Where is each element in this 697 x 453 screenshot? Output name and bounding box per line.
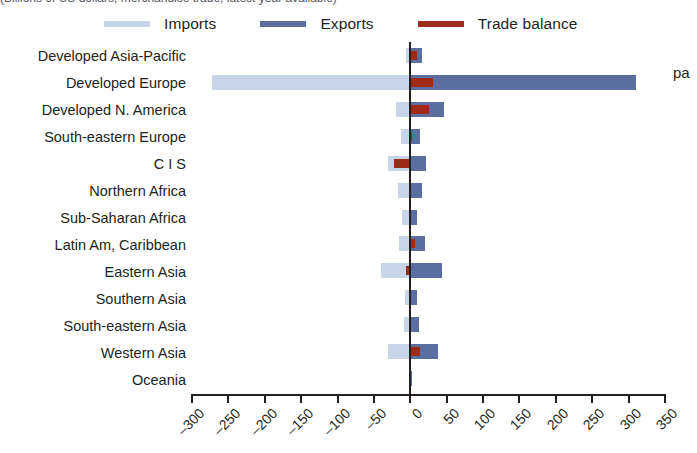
- zero-reference-line: [409, 42, 411, 394]
- category-axis-labels: Developed Asia-PacificDeveloped EuropeDe…: [0, 44, 186, 394]
- bar-exports[interactable]: [410, 317, 419, 332]
- legend-label-imports: Imports: [164, 15, 216, 33]
- x-tick-mark: [373, 394, 375, 403]
- category-label: Developed Asia-Pacific: [0, 48, 186, 64]
- category-label: C I S: [0, 156, 186, 172]
- bar-imports[interactable]: [212, 75, 410, 90]
- bar-row: [192, 44, 665, 71]
- legend-label-trade-balance: Trade balance: [478, 15, 578, 33]
- legend-swatch-imports-icon: [104, 21, 150, 27]
- category-label: Latin Am, Caribbean: [0, 237, 186, 253]
- bar-exports[interactable]: [410, 263, 441, 278]
- chart-root: (Billions of US dollars, merchandise tra…: [0, 0, 697, 453]
- bar-row: [192, 71, 665, 98]
- legend-item-exports[interactable]: Exports: [260, 15, 373, 33]
- bar-exports[interactable]: [410, 183, 422, 198]
- bar-row: [192, 286, 665, 313]
- legend-swatch-exports-icon: [260, 21, 306, 27]
- category-label: South-eastern Asia: [0, 318, 186, 334]
- bar-row: [192, 313, 665, 340]
- category-label: Oceania: [0, 372, 186, 388]
- bar-row: [192, 125, 665, 152]
- bar-row: [192, 179, 665, 206]
- legend-label-exports: Exports: [320, 15, 373, 33]
- bar-exports[interactable]: [410, 75, 636, 90]
- legend-item-imports[interactable]: Imports: [104, 15, 216, 33]
- bar-row: [192, 340, 665, 367]
- x-tick-mark: [482, 394, 484, 403]
- x-tick-mark: [555, 394, 557, 403]
- category-label: South-eastern Europe: [0, 129, 186, 145]
- bar-row: [192, 259, 665, 286]
- bar-row: [192, 152, 665, 179]
- bar-trade-balance[interactable]: [410, 347, 419, 356]
- x-tick-mark: [664, 394, 666, 403]
- x-tick-mark: [628, 394, 630, 403]
- category-label: Developed Europe: [0, 75, 186, 91]
- legend-item-trade-balance[interactable]: Trade balance: [418, 15, 578, 33]
- plot-area: [192, 44, 665, 394]
- bar-imports[interactable]: [396, 102, 410, 117]
- bar-row: [192, 232, 665, 259]
- x-tick-mark: [300, 394, 302, 403]
- chart-legend: Imports Exports Trade balance: [0, 12, 640, 36]
- bar-row: [192, 367, 665, 394]
- category-label: Sub-Saharan Africa: [0, 210, 186, 226]
- bar-imports[interactable]: [388, 344, 411, 359]
- category-label: Eastern Asia: [0, 264, 186, 280]
- x-tick-mark: [264, 394, 266, 403]
- bar-row: [192, 98, 665, 125]
- x-axis-ticks: –300–250–200–150–100–5005010015020025030…: [192, 394, 665, 453]
- bar-trade-balance[interactable]: [394, 159, 410, 168]
- x-tick-mark: [227, 394, 229, 403]
- x-tick-mark: [591, 394, 593, 403]
- category-label: Southern Asia: [0, 291, 186, 307]
- bar-row: [192, 206, 665, 233]
- bar-trade-balance[interactable]: [410, 105, 429, 114]
- x-tick-mark: [446, 394, 448, 403]
- category-label: Northern Africa: [0, 183, 186, 199]
- category-label: Western Asia: [0, 345, 186, 361]
- bar-trade-balance[interactable]: [410, 78, 433, 87]
- figure-caption-sliver: (Billions of US dollars, merchandise tra…: [0, 0, 697, 5]
- legend-swatch-trade-balance-icon: [418, 21, 464, 27]
- x-tick-mark: [518, 394, 520, 403]
- category-label: Developed N. America: [0, 102, 186, 118]
- edge-clipped-word: pa: [673, 64, 697, 81]
- x-tick-mark: [409, 394, 411, 403]
- x-tick-mark: [191, 394, 193, 403]
- bar-exports[interactable]: [410, 156, 425, 171]
- x-tick-mark: [337, 394, 339, 403]
